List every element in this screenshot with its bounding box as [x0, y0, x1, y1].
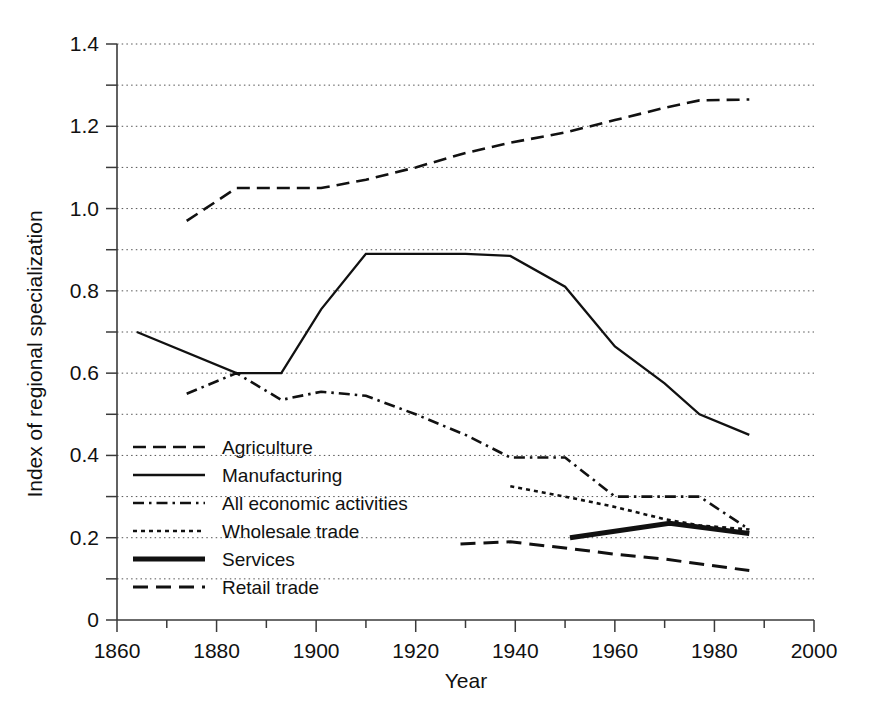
- x-axis-ticks: [117, 620, 814, 632]
- x-tick-label: 1960: [591, 639, 638, 662]
- y-tick-label: 0.8: [70, 279, 99, 302]
- legend-label-manufacturing: Manufacturing: [222, 465, 342, 486]
- x-axis-title: Year: [445, 669, 487, 692]
- y-tick-label: 0.2: [70, 526, 99, 549]
- y-axis-title: Index of regional specialization: [23, 210, 46, 497]
- chart-figure: 00.20.40.60.81.01.21.4 18601880190019201…: [0, 0, 871, 713]
- series-line-agriculture: [187, 100, 750, 221]
- series-line-wholesale-trade: [510, 486, 749, 529]
- legend-label-services: Services: [222, 549, 295, 570]
- y-tick-label: 0.4: [70, 443, 100, 466]
- chart-legend: AgricultureManufacturingAll economic act…: [133, 437, 408, 598]
- series-line-services: [570, 523, 749, 537]
- legend-label-wholesale-trade: Wholesale trade: [222, 521, 359, 542]
- x-tick-label: 2000: [791, 639, 838, 662]
- legend-label-retail-trade: Retail trade: [222, 577, 319, 598]
- legend-label-agriculture: Agriculture: [222, 437, 313, 458]
- legend-label-all-economic-activities: All economic activities: [222, 493, 408, 514]
- y-axis-ticks: [106, 44, 117, 620]
- y-tick-label: 0.6: [70, 361, 99, 384]
- x-axis-tick-labels: 18601880190019201940196019802000: [94, 639, 838, 662]
- y-tick-label: 1.4: [70, 32, 100, 55]
- line-chart: 00.20.40.60.81.01.21.4 18601880190019201…: [0, 0, 871, 713]
- x-tick-label: 1860: [94, 639, 141, 662]
- series-line-retail-trade: [461, 542, 750, 571]
- series-line-manufacturing: [137, 254, 749, 435]
- x-tick-label: 1940: [492, 639, 539, 662]
- x-tick-label: 1980: [691, 639, 738, 662]
- x-tick-label: 1920: [392, 639, 439, 662]
- y-tick-label: 1.0: [70, 197, 99, 220]
- y-axis-tick-labels: 00.20.40.60.81.01.21.4: [70, 32, 100, 631]
- x-tick-label: 1880: [193, 639, 240, 662]
- y-tick-label: 1.2: [70, 114, 99, 137]
- y-tick-label: 0: [87, 608, 99, 631]
- x-tick-label: 1900: [293, 639, 340, 662]
